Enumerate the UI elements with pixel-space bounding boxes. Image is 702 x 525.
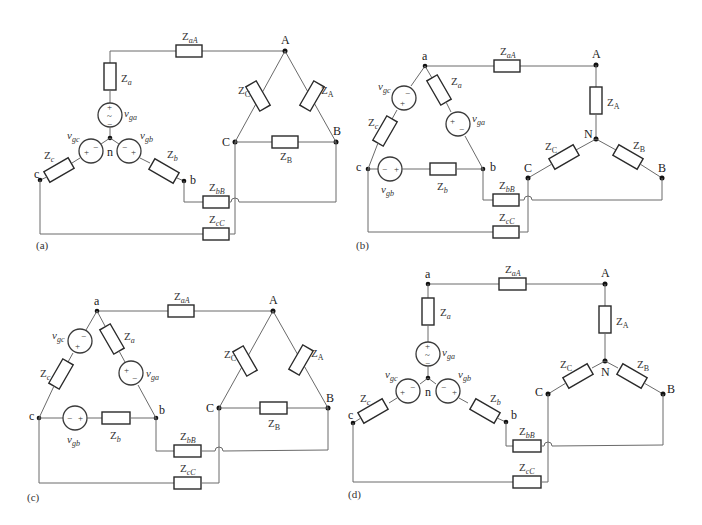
label-node-b: b [511, 408, 517, 422]
label-node-c: c [348, 408, 353, 422]
resistor-Za [104, 63, 116, 90]
resistor-ZbB [513, 440, 541, 452]
plus-sign: + [394, 164, 399, 174]
label-vgc: vgc [52, 329, 65, 344]
resistor-ZB [260, 402, 287, 414]
caption-d: (d) [348, 488, 361, 501]
label-ZbB: ZbB [519, 425, 535, 440]
label-vgc: vgc [378, 80, 391, 95]
label-node-C: C [524, 161, 532, 175]
resistor-ZbB [493, 194, 519, 206]
label-ZA: ZA [616, 315, 629, 330]
plus-sign: + [78, 413, 83, 423]
label-vga: vga [124, 107, 137, 122]
label-node-A: A [269, 293, 278, 307]
resistor-Za [427, 75, 451, 105]
label-vgc: vgc [67, 129, 80, 144]
minus-sign: − [382, 164, 387, 174]
minus-sign: − [122, 142, 127, 152]
resistor-Zb [102, 412, 130, 424]
label-node-B: B [658, 161, 666, 175]
label-ZbB: ZbB [499, 179, 515, 194]
resistor-ZbB [174, 445, 201, 457]
label-ZcC: ZcC [519, 461, 535, 476]
label-ZB: ZB [268, 417, 280, 432]
label-ZB: ZB [280, 150, 292, 165]
label-node-n: n [425, 385, 431, 399]
circuit-figure: ZaA Za + ~ − vga n + − vgc Zc c + − vgb … [0, 0, 702, 525]
label-node-b: b [190, 173, 196, 187]
resistor-ZcC [493, 226, 519, 238]
minus-sign: − [405, 88, 410, 98]
minus-sign: − [410, 382, 415, 392]
resistor-ZcC [174, 477, 201, 489]
minus-sign: − [93, 142, 98, 152]
resistor-ZbB [203, 196, 229, 208]
resistor-ZcC [513, 476, 541, 488]
minus-sign: − [441, 382, 446, 392]
label-node-C: C [535, 385, 543, 399]
resistor-Zc [373, 116, 397, 146]
label-Zb: Zb [437, 180, 448, 195]
panel-b: ZaA a c b + − vgc Zc Za + − vga + − vgb [356, 45, 666, 252]
label-vga: vga [472, 112, 485, 127]
label-vgb: vgb [381, 183, 394, 198]
panel-d: ZaA a Za + ~ − vga n + − vgc Zc c + − vg… [348, 263, 675, 501]
label-vgb: vgb [140, 129, 153, 144]
label-node-a: a [425, 267, 431, 281]
label-Za: Za [451, 75, 462, 90]
resistor-ZA [590, 87, 602, 114]
label-ZcC: ZcC [209, 213, 225, 228]
label-vga: vga [442, 346, 455, 361]
label-Zb: Zb [490, 392, 501, 407]
circuit-diagrams: ZaA Za + ~ − vga n + − vgc Zc c + − vgb … [0, 0, 702, 525]
label-node-A: A [601, 266, 610, 280]
label-ZbB: ZbB [180, 430, 196, 445]
label-Zb: Zb [167, 148, 178, 163]
label-node-c: c [29, 409, 34, 423]
voltage-source-vgb [117, 139, 141, 163]
minus-sign: − [132, 373, 137, 383]
plus-sign: + [450, 116, 455, 126]
label-ZC: ZC [545, 140, 557, 155]
resistor-Zc [44, 158, 74, 182]
label-ZcC: ZcC [499, 211, 515, 226]
label-ZaA: ZaA [174, 290, 190, 305]
plus-sign: + [400, 98, 405, 108]
plus-sign: + [75, 341, 80, 351]
resistor-ZaA [494, 60, 520, 72]
resistor-ZA [599, 306, 611, 333]
label-ZB: ZB [633, 139, 645, 154]
resistor-ZcC [203, 228, 229, 240]
label-vgc: vgc [385, 368, 398, 383]
resistor-Za [422, 298, 434, 325]
label-node-N: N [584, 127, 593, 141]
label-node-b: b [490, 160, 496, 174]
label-Za: Za [440, 306, 451, 321]
label-node-A: A [592, 47, 601, 61]
plus-sign: + [124, 365, 129, 375]
label-node-c: c [356, 160, 361, 174]
resistor-ZaA [168, 305, 194, 317]
voltage-source-vga [119, 361, 143, 385]
label-ZA: ZA [311, 347, 324, 362]
label-node-B: B [333, 124, 341, 138]
label-vga: vga [146, 367, 159, 382]
label-ZB: ZB [637, 358, 649, 373]
resistor-ZA [289, 345, 313, 375]
label-node-B: B [667, 382, 675, 396]
label-ZA: ZA [321, 84, 334, 99]
label-Zb: Zb [110, 429, 121, 444]
caption-a: (a) [36, 239, 49, 252]
label-Zc: Zc [360, 392, 371, 407]
label-Zc: Zc [368, 116, 379, 131]
resistor-ZC [233, 346, 257, 376]
minus-sign: − [81, 331, 86, 341]
label-node-a: a [94, 294, 100, 308]
plus-sign: + [400, 387, 405, 397]
label-Zc: Zc [40, 367, 51, 382]
resistor-ZB [272, 136, 298, 148]
caption-b: (b) [356, 239, 369, 252]
label-ZbB: ZbB [209, 181, 225, 196]
label-ZA: ZA [607, 96, 620, 111]
